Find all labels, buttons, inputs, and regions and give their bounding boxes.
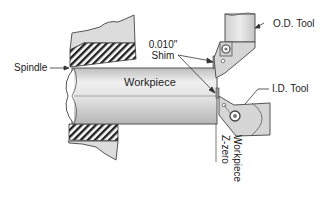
- od-tool-label: O.D. Tool: [273, 18, 315, 29]
- spindle-upper: [70, 15, 136, 67]
- od-tool: [214, 13, 255, 78]
- spindle-lower: [68, 124, 118, 160]
- diagram-canvas: Spindle Workpiece 0.010" Shim O.D. Tool …: [0, 0, 332, 198]
- workpiece-z-zero-label-line2: Z-zero: [220, 135, 231, 164]
- id-tool-label: I.D. Tool: [272, 83, 309, 94]
- shim-label: Shim: [146, 50, 180, 61]
- workpiece-z-zero-label-line1: Workpiece: [232, 135, 243, 182]
- spindle-label: Spindle: [14, 62, 47, 73]
- workpiece-label: Workpiece: [124, 77, 176, 88]
- shim-thickness-label: 0.010": [146, 39, 180, 50]
- id-tool: [219, 96, 270, 136]
- lathe-setup-illustration: [0, 0, 332, 198]
